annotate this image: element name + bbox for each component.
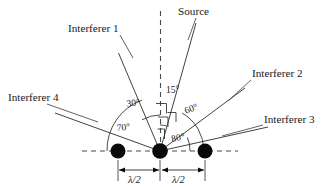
spacing-label-right: λ/2 (171, 174, 185, 185)
array-element-right (198, 144, 213, 159)
label-interferer-1: Interferer 1 (68, 22, 119, 34)
antenna-array-diagram: Interferer 1 Source Interferer 2 Interfe… (0, 0, 335, 187)
angle-label-30: 30° (126, 96, 141, 109)
label-interferer-4: Interferer 4 (8, 91, 59, 103)
label-interferer-3: Interferer 3 (264, 113, 315, 125)
angle-label-70: 70° (116, 121, 131, 133)
array-element-center (152, 143, 168, 159)
label-interferer-2: Interferer 2 (252, 67, 303, 79)
spacing-label-left: λ/2 (127, 174, 141, 185)
angle-label-15: 15° (166, 84, 180, 95)
label-source: Source (178, 5, 209, 17)
array-element-left (111, 144, 126, 159)
